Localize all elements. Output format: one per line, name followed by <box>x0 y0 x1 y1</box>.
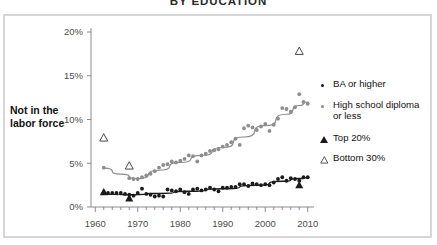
data-point <box>136 191 140 195</box>
legend-item-bottom-30[interactable]: Bottom 30% <box>320 152 432 164</box>
y-tick-label: 15% <box>64 70 84 81</box>
legend-item-ba-or-higher[interactable]: BA or higher <box>320 78 432 90</box>
data-point <box>225 143 229 147</box>
data-point <box>127 176 131 180</box>
data-point-triangle-open <box>295 47 303 54</box>
data-point-triangle-open <box>125 162 133 169</box>
x-tick-label: 1960 <box>85 218 106 229</box>
data-point <box>200 153 204 157</box>
data-point <box>306 102 310 106</box>
data-point <box>246 124 250 128</box>
x-tick-label: 1990 <box>212 218 233 229</box>
data-point <box>238 182 242 186</box>
data-point <box>140 187 144 191</box>
data-point <box>242 126 246 130</box>
x-tick-label: 2000 <box>255 218 276 229</box>
data-point <box>149 193 153 197</box>
data-point <box>276 117 280 121</box>
triangle-solid-icon <box>320 135 330 145</box>
data-point <box>246 184 250 188</box>
x-tick-label: 2010 <box>297 218 318 229</box>
data-point <box>187 153 191 157</box>
chart-root: BY EDUCATION Not in the labor force 0%5%… <box>0 0 437 245</box>
trend-line <box>104 102 308 179</box>
data-point-triangle <box>100 188 108 195</box>
data-point <box>157 194 161 198</box>
data-point <box>225 186 229 190</box>
data-point <box>191 188 195 192</box>
triangle-open-icon <box>320 155 330 165</box>
data-point <box>263 122 267 126</box>
legend-item-high-school-diploma-or-less[interactable]: High school diploma or less <box>320 99 432 122</box>
data-point <box>212 188 216 192</box>
y-tick-label: 20% <box>64 26 84 37</box>
data-point <box>255 182 259 186</box>
data-point <box>251 181 255 185</box>
legend-item-top-20[interactable]: Top 20% <box>320 132 432 144</box>
data-point <box>221 186 225 190</box>
data-point-triangle-open <box>100 134 108 141</box>
data-point <box>174 189 178 193</box>
data-point <box>174 160 178 164</box>
legend-label-second-line: or less <box>333 110 361 121</box>
data-point <box>268 129 272 133</box>
data-point <box>170 188 174 192</box>
data-point <box>183 157 187 161</box>
data-point <box>132 194 136 198</box>
data-point <box>272 123 276 127</box>
data-point <box>297 92 301 96</box>
data-point <box>204 152 208 156</box>
data-point <box>183 190 187 194</box>
y-tick-label: 5% <box>69 158 83 169</box>
chart-legend: BA or higher High school diploma or less… <box>320 78 432 173</box>
data-point <box>157 166 161 170</box>
x-tick-label: 1970 <box>127 218 148 229</box>
data-point <box>115 191 119 195</box>
data-point <box>153 195 157 199</box>
data-point <box>140 175 144 179</box>
data-point <box>178 188 182 192</box>
data-point <box>166 162 170 166</box>
data-point <box>289 110 293 114</box>
data-point <box>242 182 246 186</box>
data-point <box>200 188 204 192</box>
data-point-triangle <box>295 181 303 188</box>
data-point <box>280 106 284 110</box>
legend-label: High school diploma <box>333 99 419 110</box>
data-point <box>178 159 182 163</box>
data-point <box>229 185 233 189</box>
data-point <box>259 183 263 187</box>
data-point <box>161 163 165 167</box>
data-point <box>259 125 263 129</box>
data-point <box>272 181 276 185</box>
data-point <box>204 188 208 192</box>
data-point <box>119 191 123 195</box>
dot-gray-icon <box>320 102 330 112</box>
data-point <box>229 140 233 144</box>
data-point <box>153 169 157 173</box>
data-point <box>166 188 170 192</box>
data-point <box>144 192 148 196</box>
data-point <box>302 175 306 179</box>
data-point <box>217 189 221 193</box>
data-point <box>136 177 140 181</box>
legend-label: BA or higher <box>333 78 386 89</box>
data-point <box>280 175 284 179</box>
y-tick-label: 10% <box>64 114 84 125</box>
legend-label: Top 20% <box>333 132 370 143</box>
data-point <box>263 182 267 186</box>
data-point <box>293 105 297 109</box>
data-point <box>187 192 191 196</box>
data-point <box>161 195 165 199</box>
data-point <box>217 147 221 151</box>
data-point <box>110 191 114 195</box>
data-point <box>208 149 212 153</box>
data-point <box>234 137 238 141</box>
data-point <box>238 143 242 147</box>
series-bottom-30- <box>100 47 304 169</box>
data-point <box>251 125 255 129</box>
data-point <box>285 107 289 111</box>
data-point <box>191 154 195 158</box>
data-point <box>102 166 106 170</box>
data-point <box>285 179 289 183</box>
